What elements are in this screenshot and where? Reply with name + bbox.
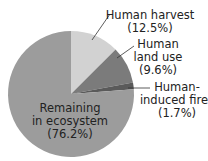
label-fires: Human- induced fires (1.7%) bbox=[140, 81, 208, 120]
leader-line-landuse bbox=[117, 46, 134, 58]
label-harvest: Human harvest (12.5%) bbox=[106, 9, 195, 35]
label-landuse: Human land use (9.6%) bbox=[134, 38, 183, 77]
label-landuse-value: (9.6%) bbox=[134, 64, 183, 77]
label-fires-value: (1.7%) bbox=[140, 107, 208, 120]
label-harvest-value: (12.5%) bbox=[106, 22, 195, 35]
label-remaining: Remaining in ecosystem (76.2%) bbox=[32, 102, 108, 141]
label-remaining-value: (76.2%) bbox=[32, 128, 108, 141]
